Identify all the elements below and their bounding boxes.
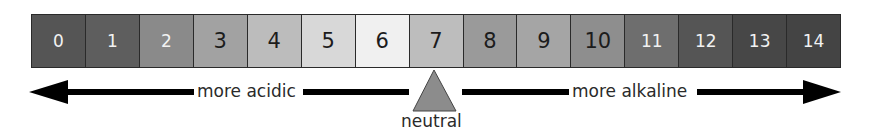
more-alkaline-label: more alkaline: [572, 83, 687, 100]
neutral-fulcrum-icon: [413, 70, 456, 111]
neutral-label: neutral: [401, 113, 462, 130]
more-acidic-label: more acidic: [197, 83, 296, 100]
